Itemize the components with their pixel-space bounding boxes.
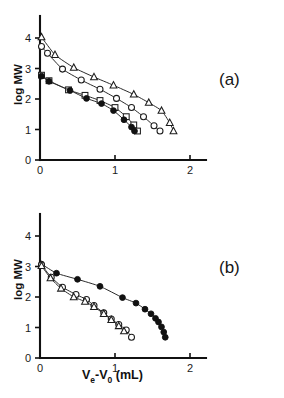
y-axis-label-a: log MW: [12, 64, 24, 105]
data-point-circle-filled: [99, 101, 105, 107]
data-point-circle-filled: [120, 295, 126, 301]
data-point-triangle-open: [130, 91, 137, 97]
data-point-circle-filled: [75, 276, 81, 282]
chart-panel-b: 01234012: [0, 190, 284, 398]
y-axis-tick-label: 1: [25, 124, 31, 136]
y-axis-tick-label: 2: [25, 291, 31, 303]
data-point-circle-open: [78, 77, 84, 83]
y-axis-tick-label: 1: [25, 322, 31, 334]
data-point-circle-open: [97, 86, 103, 92]
y-axis-tick-label: 4: [25, 230, 31, 242]
x-axis-tick-label: 2: [187, 362, 193, 374]
data-point-circle-filled: [162, 334, 168, 340]
data-point-circle-filled: [39, 73, 45, 79]
plot-area-b: 01234012: [0, 190, 284, 398]
panel-label-a: (a): [219, 70, 240, 90]
data-point-circle-open: [129, 334, 135, 340]
y-axis-tick-label: 3: [25, 261, 31, 273]
y-axis-tick-label: 4: [25, 32, 31, 44]
data-point-circle-open: [129, 105, 135, 111]
data-point-circle-filled: [148, 311, 154, 317]
x-axis-tick-label: 1: [112, 164, 118, 176]
data-point-triangle-open: [170, 127, 177, 133]
data-point-triangle-open: [145, 99, 152, 105]
series-line-filled-circle: [42, 76, 135, 131]
y-axis-tick-label: 2: [25, 93, 31, 105]
plot-area-a: 01234012: [0, 0, 284, 200]
y-axis-tick-label: 0: [25, 154, 31, 166]
x-axis-label: Ve-V0 (mL): [82, 368, 143, 385]
data-point-circle-filled: [133, 300, 139, 306]
data-point-circle-open: [157, 128, 163, 134]
panel-label-b: (b): [219, 258, 240, 278]
data-point-circle-filled: [121, 117, 127, 123]
series-line-filled-circle: [42, 264, 166, 337]
data-point-circle-filled: [111, 108, 117, 114]
data-point-circle-open: [141, 114, 147, 120]
x-axis-tick-label: 0: [37, 362, 43, 374]
data-point-circle-open: [39, 44, 45, 50]
data-point-circle-filled: [97, 283, 103, 289]
data-point-circle-filled: [54, 270, 60, 276]
figure-container: 01234012 01234012 log MW log MW Ve-V0 (m…: [0, 0, 284, 398]
data-point-triangle-open: [166, 119, 173, 125]
data-point-circle-filled: [46, 78, 52, 84]
data-point-circle-open: [114, 95, 120, 101]
x-axis-tick-label: 0: [37, 164, 43, 176]
y-axis-label-b: log MW: [12, 259, 24, 300]
data-point-circle-open: [45, 50, 51, 56]
chart-panel-a: 01234012: [0, 0, 284, 200]
data-point-circle-filled: [132, 128, 138, 134]
data-point-circle-filled: [142, 306, 148, 312]
data-point-circle-filled: [67, 88, 73, 94]
y-axis-tick-label: 0: [25, 352, 31, 364]
x-axis-tick-label: 2: [187, 164, 193, 176]
y-axis-tick-label: 3: [25, 63, 31, 75]
data-point-circle-open: [60, 66, 66, 72]
series-line-open-triangle: [42, 37, 174, 131]
data-point-triangle-open: [70, 64, 77, 70]
data-point-triangle-open: [158, 107, 165, 113]
data-point-circle-filled: [84, 95, 90, 101]
data-point-circle-open: [151, 123, 157, 129]
